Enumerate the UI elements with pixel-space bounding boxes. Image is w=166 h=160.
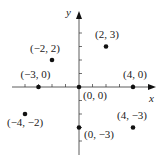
- y-axis-label: y: [65, 6, 71, 18]
- data-point: [104, 44, 109, 49]
- point-label: (4, −3): [117, 109, 147, 122]
- point-label: (−2, 2): [30, 42, 60, 55]
- x-axis-arrow-icon: [148, 84, 156, 90]
- x-axis-label: x: [148, 92, 154, 104]
- data-point: [131, 125, 136, 130]
- y-axis-arrow-icon: [76, 11, 82, 19]
- point-labels: (−2, 2)(2, 3)(−3, 0)(0, 0)(4, 0)(−4, −2)…: [7, 28, 147, 141]
- data-point: [77, 85, 82, 90]
- point-label: (−3, 0): [21, 68, 51, 81]
- point-label: (4, 0): [123, 68, 147, 81]
- data-point: [131, 85, 136, 90]
- point-label: (2, 3): [95, 28, 119, 41]
- point-label: (−4, −2): [7, 116, 44, 129]
- coordinate-plane-plot: (−2, 2)(2, 3)(−3, 0)(0, 0)(4, 0)(−4, −2)…: [0, 0, 166, 160]
- data-point: [50, 58, 55, 63]
- data-point: [77, 125, 82, 130]
- point-label: (0, 0): [83, 89, 107, 102]
- point-label: (0, −3): [84, 128, 114, 141]
- data-point: [36, 85, 41, 90]
